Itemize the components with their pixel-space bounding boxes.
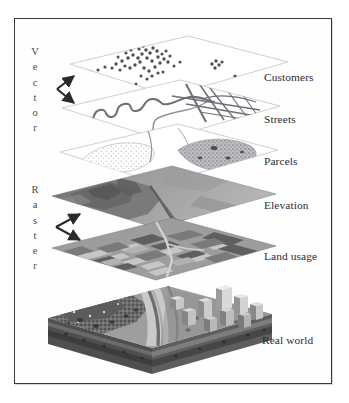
category-letter: R: [24, 182, 46, 197]
category-letter: s: [24, 213, 46, 228]
category-letter: r: [24, 258, 46, 273]
layer-landusage: [52, 218, 276, 280]
layer-label-parcels: Parcels: [264, 155, 298, 167]
layer-elevation: [52, 166, 276, 228]
category-letter: t: [24, 90, 46, 105]
category-letter: e: [24, 243, 46, 258]
category-letter: c: [24, 75, 46, 90]
layer-label-realworld: Real world: [262, 334, 313, 346]
category-letter: t: [24, 228, 46, 243]
category-letter: V: [24, 44, 46, 59]
layer-label-customers: Customers: [264, 71, 314, 83]
raster-bracket-arrow: [56, 214, 80, 240]
layer-realworld: [48, 285, 272, 374]
category-letter: r: [24, 120, 46, 135]
layer-label-streets: Streets: [264, 113, 296, 125]
category-letter: e: [24, 59, 46, 74]
layer-label-landusage: Land usage: [264, 250, 317, 262]
category-label-raster: R a s t e r: [24, 182, 46, 274]
layer-label-elevation: Elevation: [264, 199, 309, 211]
category-label-vector: V e c t o r: [24, 44, 46, 136]
category-letter: o: [24, 105, 46, 120]
category-letter: a: [24, 197, 46, 212]
vector-bracket-arrow: [57, 76, 74, 103]
